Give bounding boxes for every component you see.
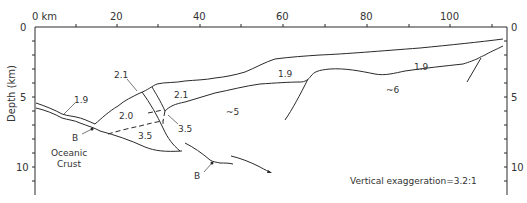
cross-section-diagram: 0 km 20 40 60 80 100 0 5 10 Depth (km) bbox=[0, 0, 527, 203]
oceanic-crust-label-line1: Oceanic bbox=[51, 148, 87, 158]
right-y-axis: 0 5 10 bbox=[504, 22, 524, 195]
velocity-label-3-5-right: 3.5 bbox=[178, 124, 192, 134]
annotations: B B Oceanic Crust Vertical exaggeration=… bbox=[51, 133, 477, 186]
left-y-tick-10: 10 bbox=[16, 162, 29, 173]
x-tick-60: 60 bbox=[276, 11, 289, 22]
right-y-tick-0: 0 bbox=[511, 22, 517, 33]
velocity-label-6: ~6 bbox=[386, 85, 400, 95]
oceanic-crust-label-line2: Crust bbox=[57, 159, 81, 169]
boundary-b-left: B bbox=[72, 133, 78, 143]
velocity-label-1-9-mid: 1.9 bbox=[278, 69, 293, 79]
velocity-label-1-9-right: 1.9 bbox=[414, 62, 429, 72]
left-y-axis: 0 5 10 Depth (km) bbox=[6, 22, 35, 195]
vertical-exaggeration-note: Vertical exaggeration=3.2:1 bbox=[350, 176, 477, 186]
x-tick-80: 80 bbox=[360, 11, 373, 22]
x-tick-20: 20 bbox=[110, 11, 123, 22]
velocity-label-2-1-mid: 2.1 bbox=[174, 90, 188, 100]
velocity-label-2-0: 2.0 bbox=[119, 111, 134, 121]
x-tick-100: 100 bbox=[440, 11, 459, 22]
x-axis-unit-label: 0 km bbox=[32, 11, 57, 22]
velocity-label-3-5-lower: 3.5 bbox=[138, 131, 152, 141]
layer-boundaries bbox=[36, 39, 503, 173]
velocity-label-1-9-left: 1.9 bbox=[74, 95, 89, 105]
right-y-tick-5: 5 bbox=[511, 92, 517, 103]
velocity-label-2-1-upper: 2.1 bbox=[114, 70, 128, 80]
left-y-tick-0: 0 bbox=[20, 22, 26, 33]
y-axis-label: Depth (km) bbox=[6, 65, 17, 122]
velocity-label-5: ~5 bbox=[226, 107, 239, 117]
x-axis: 0 km 20 40 60 80 100 bbox=[32, 11, 507, 27]
left-y-tick-5: 5 bbox=[20, 92, 26, 103]
right-y-tick-10: 10 bbox=[511, 162, 524, 173]
boundary-b-right: B bbox=[194, 171, 200, 181]
x-tick-40: 40 bbox=[193, 11, 206, 22]
